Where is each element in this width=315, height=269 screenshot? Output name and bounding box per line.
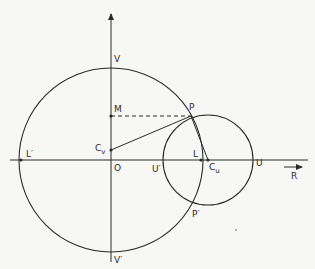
- diagram-svg: [0, 0, 315, 269]
- label-p-prime: P′: [192, 210, 199, 219]
- label-cu-sub: u: [215, 167, 219, 175]
- label-cv: Cv: [95, 144, 105, 156]
- label-cu: Cu: [209, 163, 220, 175]
- line-cv-p: [111, 116, 191, 150]
- label-u: U: [256, 159, 263, 168]
- label-cv-sub: v: [101, 148, 105, 156]
- label-v: V: [114, 55, 120, 64]
- point-l-prime: [19, 158, 22, 161]
- label-m: M: [114, 105, 122, 114]
- label-p: P: [189, 103, 194, 112]
- label-o: O: [114, 164, 121, 173]
- label-r: R: [291, 172, 297, 181]
- diagram-canvas: V M P Cv O L′ U′ L Cu U R P′ V′: [0, 0, 315, 269]
- label-l-prime: L′: [26, 150, 33, 159]
- label-l: L: [193, 150, 198, 159]
- point-m: [109, 114, 112, 117]
- label-u-prime: U′: [152, 165, 161, 174]
- speck: [235, 229, 236, 230]
- point-l: [199, 158, 202, 161]
- point-cv: [109, 148, 112, 151]
- label-v-prime: V′: [114, 256, 122, 265]
